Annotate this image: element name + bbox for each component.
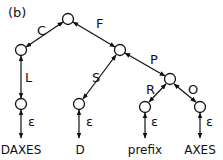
edge-label-p: P — [150, 52, 158, 67]
edge-f — [73, 22, 115, 47]
node-c — [16, 45, 27, 56]
edge-label-s: S — [92, 70, 100, 85]
edge-p — [125, 53, 165, 76]
node-p — [165, 74, 176, 85]
edge-label-r: R — [146, 82, 155, 97]
edge-label-o: O — [188, 82, 198, 97]
diagram-svg: (b) C F L S P R O ε ε ε ε DAXES D prefix — [0, 0, 223, 160]
epsilon-label-prefix: ε — [151, 114, 158, 129]
edge-label-c: C — [37, 23, 46, 38]
leaf-label-axes: AXES — [184, 143, 216, 157]
node-r — [140, 102, 151, 113]
node-f — [115, 45, 126, 56]
epsilon-label-daxes: ε — [28, 114, 35, 129]
node-root — [63, 14, 74, 25]
node-s — [74, 99, 85, 110]
trie-diagram: (b) C F L S P R O ε ε ε ε DAXES D prefix — [0, 0, 223, 160]
figure-label: (b) — [8, 5, 26, 20]
edge-label-f: F — [96, 16, 103, 31]
leaf-label-d: D — [75, 143, 84, 157]
epsilon-label-axes: ε — [206, 114, 213, 129]
node-o — [195, 102, 206, 113]
leaf-label-daxes: DAXES — [1, 143, 42, 157]
epsilon-label-d: ε — [86, 114, 93, 129]
edge-label-l: L — [25, 70, 33, 85]
node-l — [16, 99, 27, 110]
leaf-label-prefix: prefix — [128, 143, 162, 157]
